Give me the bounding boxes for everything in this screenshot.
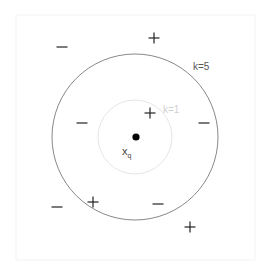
query-point (132, 133, 139, 140)
outer-label: k=5 (193, 61, 210, 72)
knn-diagram: k=5 k=1 xq (0, 0, 269, 277)
plus-point (149, 33, 160, 44)
plus-point (185, 222, 196, 233)
plus-point (145, 108, 156, 119)
query-label: xq (122, 145, 132, 160)
inner-label: k=1 (163, 104, 180, 115)
